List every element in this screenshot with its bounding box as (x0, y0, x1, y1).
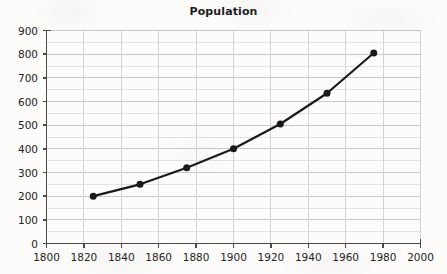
y-axis-tick-label: 700 (4, 72, 38, 84)
data-point (183, 164, 190, 171)
y-axis-tick-label: 600 (4, 96, 38, 108)
data-point (277, 120, 284, 127)
y-axis-tick-label: 0 (4, 238, 38, 250)
y-axis-tick-label: 400 (4, 143, 38, 155)
y-axis-tick-label: 300 (4, 167, 38, 179)
y-axis-tick-label: 800 (4, 48, 38, 60)
data-point (137, 181, 144, 188)
data-point (90, 193, 97, 200)
data-point (230, 145, 237, 152)
x-axis-tick-label: 2000 (399, 251, 443, 263)
data-point (324, 90, 331, 97)
data-point (370, 49, 377, 56)
plot-area (0, 0, 447, 274)
y-axis-tick-label: 200 (4, 190, 38, 202)
y-axis-tick-label: 900 (4, 25, 38, 37)
y-axis-tick-label: 100 (4, 214, 38, 226)
population-line-chart: Population 0100200300400500600700800900 … (0, 0, 447, 274)
y-axis-tick-label: 500 (4, 119, 38, 131)
